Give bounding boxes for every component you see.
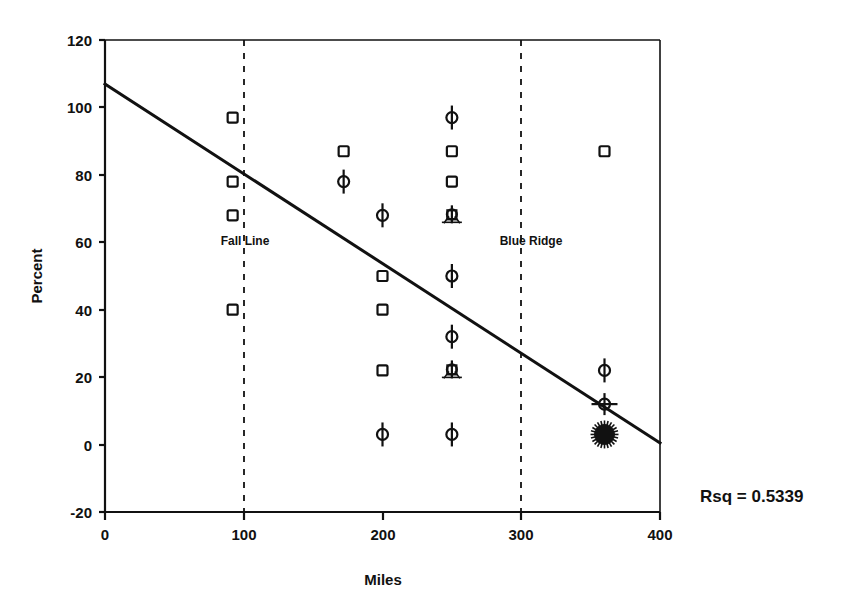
data-point-square [228, 305, 238, 315]
data-point-square [378, 365, 388, 375]
y-tick-label-neg20: -20 [70, 504, 92, 521]
data-point-square [447, 146, 457, 156]
y-tick-label-80: 80 [75, 167, 92, 184]
x-tick-label-200: 200 [370, 526, 395, 543]
y-tick-label-20: 20 [75, 369, 92, 386]
rsq-annotation: Rsq = 0.5339 [700, 487, 804, 506]
marker-square [600, 146, 610, 156]
blue-ridge-label: Blue Ridge [500, 234, 563, 248]
data-point-circle-bar [446, 422, 457, 446]
x-tick-label-400: 400 [647, 526, 672, 543]
marker-square [447, 177, 457, 187]
y-tick-label-60: 60 [75, 234, 92, 251]
data-point-square [447, 177, 457, 187]
data-point-cluster [442, 205, 462, 223]
data-point-square [228, 210, 238, 220]
y-tick-label-120: 120 [67, 32, 92, 49]
scatter-chart: 120 100 80 60 40 20 0 -20 0 100 200 300 … [0, 0, 856, 614]
data-point-square [600, 146, 610, 156]
marker-square [228, 113, 238, 123]
marker-square [378, 305, 388, 315]
data-point-circle-bar [446, 325, 457, 349]
y-axis-title: Percent [28, 248, 45, 303]
marker-square [228, 210, 238, 220]
data-point-square [228, 177, 238, 187]
data-point-dense-blob [591, 420, 619, 448]
data-point-circle-bar [446, 264, 457, 288]
y-axis-ticks: 120 100 80 60 40 20 0 -20 [67, 32, 105, 521]
data-point-square [339, 146, 349, 156]
y-tick-label-0: 0 [84, 437, 92, 454]
x-tick-label-0: 0 [101, 526, 109, 543]
marker-square [378, 271, 388, 281]
data-point-square [228, 113, 238, 123]
regression-line [105, 84, 660, 443]
x-axis-ticks: 0 100 200 300 400 [101, 512, 673, 543]
fall-line-label: Fall Line [221, 234, 270, 248]
x-tick-label-100: 100 [231, 526, 256, 543]
data-marker-layer [228, 106, 619, 449]
data-point-circle-bar [338, 170, 349, 194]
marker-dense-core [595, 424, 615, 444]
x-tick-label-300: 300 [508, 526, 533, 543]
x-axis-title: Miles [364, 571, 402, 588]
y-tick-label-100: 100 [67, 99, 92, 116]
marker-square [378, 365, 388, 375]
data-point-cluster [442, 360, 462, 378]
marker-square [447, 146, 457, 156]
data-point-circle-bar [377, 422, 388, 446]
y-tick-label-40: 40 [75, 302, 92, 319]
data-point-circle-bar [599, 358, 610, 382]
marker-square [228, 305, 238, 315]
marker-square [339, 146, 349, 156]
data-point-square [378, 305, 388, 315]
chart-canvas: 120 100 80 60 40 20 0 -20 0 100 200 300 … [0, 0, 856, 614]
marker-square [228, 177, 238, 187]
data-point-circle-bar [377, 203, 388, 227]
data-point-square [378, 271, 388, 281]
data-point-circle-bar [446, 106, 457, 130]
